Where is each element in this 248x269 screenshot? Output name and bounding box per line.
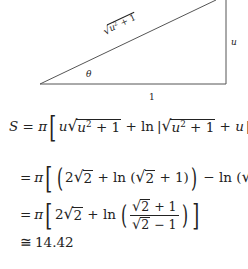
left-bracket: [ (49, 112, 56, 142)
sqrt-2: √2 (241, 170, 248, 186)
base-side-label: 1 (149, 92, 155, 102)
triangle-hypotenuse (40, 0, 216, 84)
right-bracket: ] (192, 200, 199, 230)
equation-line-3: = π [ 2 √2 + ln ( √2 + 1 √2 − 1 ) ] (20, 199, 201, 231)
angle-theta-label: θ (86, 69, 91, 79)
sqrt-2: √2 (74, 170, 93, 186)
left-paren: ( (57, 165, 63, 191)
result-value: 14.42 (35, 236, 74, 250)
sqrt-u2-plus-1-abs: √u2 + 1 (162, 119, 216, 135)
left-bracket: [ (46, 163, 53, 193)
equation-line-2: = π [ ( 2 √2 + ln ( √2 + 1) ) − ln ( √2 … (20, 162, 248, 194)
equation-line-4: ≅ 14.42 (20, 236, 74, 250)
left-bracket: [ (46, 200, 53, 230)
left-paren: ( (121, 202, 127, 228)
right-paren: ) (191, 165, 197, 191)
fraction: √2 + 1 √2 − 1 (130, 199, 178, 232)
equation-line-1: S = π [ u √u2 + 1 + ln | √u2 + 1 + u | ]… (9, 111, 248, 143)
sqrt-2: √2 (64, 207, 83, 223)
right-paren: ) (182, 202, 188, 228)
sqrt-2: √2 (136, 170, 155, 186)
vertical-side-label: u (231, 37, 237, 47)
sqrt-u2-plus-1: √u2 + 1 (67, 119, 121, 135)
